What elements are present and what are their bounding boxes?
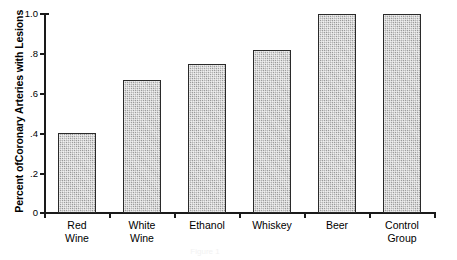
x-axis-label-beer: Beer bbox=[307, 219, 367, 232]
y-axis-label-0_4: .4 bbox=[30, 129, 38, 139]
y-axis-label-0_8: .8 bbox=[30, 49, 38, 59]
x-axis-label-red-wine: Red Wine bbox=[47, 219, 107, 245]
x-axis-tick-3 bbox=[239, 212, 241, 218]
x-axis-tick-4 bbox=[304, 212, 306, 218]
caption-artifact: Figure 1 bbox=[150, 248, 260, 256]
y-axis-tick-0_2 bbox=[40, 173, 46, 175]
x-axis-tick-2 bbox=[174, 212, 176, 218]
bar-red-wine bbox=[58, 133, 96, 213]
bar-white-wine bbox=[123, 80, 161, 213]
x-axis-label-control-group: Control Group bbox=[372, 219, 432, 245]
y-axis-tick-0_6 bbox=[40, 93, 46, 95]
y-axis-label-0_2: .2 bbox=[30, 169, 38, 179]
bar-chart-figure: Percent ofCoronary Arteries with Lesions… bbox=[0, 0, 457, 260]
x-axis-label-ethanol: Ethanol bbox=[177, 219, 237, 232]
bar-beer bbox=[318, 14, 356, 213]
y-axis-label-0: 0 bbox=[33, 208, 38, 218]
y-axis-label-1_0: 1.0 bbox=[25, 9, 38, 19]
y-axis-label-0_6: .6 bbox=[30, 89, 38, 99]
bar-whiskey bbox=[253, 50, 291, 213]
x-axis-right-cap bbox=[434, 212, 436, 218]
x-axis-tick-0 bbox=[44, 212, 46, 218]
y-axis-tick-0_8 bbox=[40, 53, 46, 55]
y-axis-line bbox=[44, 13, 46, 214]
y-axis-tick-1_0 bbox=[40, 13, 46, 15]
x-axis-label-whiskey: Whiskey bbox=[242, 219, 302, 232]
bar-control-group bbox=[383, 14, 421, 213]
x-axis-label-white-wine: White Wine bbox=[112, 219, 172, 245]
bar-ethanol bbox=[188, 64, 226, 213]
y-axis-title: Percent ofCoronary Arteries with Lesions bbox=[14, 4, 25, 218]
x-axis-tick-1 bbox=[109, 212, 111, 218]
y-axis-tick-0_4 bbox=[40, 133, 46, 135]
x-axis-tick-5 bbox=[369, 212, 371, 218]
